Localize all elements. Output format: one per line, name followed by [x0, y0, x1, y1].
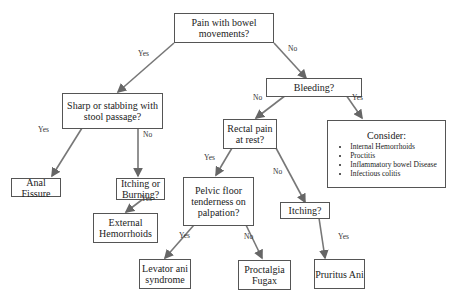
node-pain: Pain with bowel movements? — [174, 13, 274, 43]
node-itching: Itching? — [280, 202, 330, 219]
node-pruritus-text: Pruritus Ani — [315, 269, 364, 280]
node-sharp-text: Sharp or stabbing with stool passage? — [63, 100, 162, 122]
edge-label-no: No — [288, 44, 297, 53]
node-proctalgia-text: Proctalgia Fugax — [239, 264, 290, 286]
node-pelvic: Pelvic floor tenderness on palpation? — [183, 177, 254, 226]
node-anal-fissure-text: Anal Fissure — [12, 177, 60, 199]
node-pain-text: Pain with bowel movements? — [175, 17, 273, 39]
node-proctalgia: Proctalgia Fugax — [238, 260, 291, 290]
edge-label-no: No — [253, 93, 262, 102]
edge-label-no: No — [273, 167, 282, 176]
edge-label-yes: Yes — [38, 125, 49, 134]
node-external-text: External Hemorrhoids — [94, 217, 157, 239]
node-rectal-pain-text: Rectal pain at rest? — [224, 123, 276, 145]
node-pruritus: Pruritus Ani — [314, 259, 365, 289]
node-levator-text: Levator ani syndrome — [140, 263, 190, 285]
node-bleeding-text: Bleeding? — [294, 82, 335, 93]
node-itching-text: Itching? — [289, 205, 322, 216]
consider-item: Infectious colitis — [350, 169, 437, 178]
edge-label-yes: Yes — [141, 194, 152, 203]
edge-label-no: No — [244, 232, 253, 241]
edge-label-yes: Yes — [352, 93, 363, 102]
node-bleeding: Bleeding? — [266, 78, 362, 97]
consider-item: Inflammatory bowel Disease — [350, 160, 437, 169]
edge-label-yes: Yes — [338, 232, 349, 241]
consider-list: Internal Hemorrhoids Proctitis Inflammat… — [336, 142, 437, 178]
consider-title: Consider: — [367, 130, 406, 141]
edge-label-yes: Yes — [138, 49, 149, 58]
edge-label-yes: Yes — [179, 231, 190, 240]
consider-item: Proctitis — [350, 151, 437, 160]
edge-label-no: No — [143, 130, 152, 139]
node-sharp: Sharp or stabbing with stool passage? — [62, 93, 163, 129]
node-external: External Hemorrhoids — [93, 213, 158, 243]
consider-item: Internal Hemorrhoids — [350, 142, 437, 151]
node-pelvic-text: Pelvic floor tenderness on palpation? — [184, 185, 253, 218]
node-consider: Consider: Internal Hemorrhoids Proctitis… — [327, 120, 446, 188]
node-levator: Levator ani syndrome — [139, 259, 191, 289]
edge-label-yes: Yes — [204, 153, 215, 162]
node-anal-fissure: Anal Fissure — [11, 178, 61, 197]
node-rectal-pain: Rectal pain at rest? — [223, 119, 277, 149]
